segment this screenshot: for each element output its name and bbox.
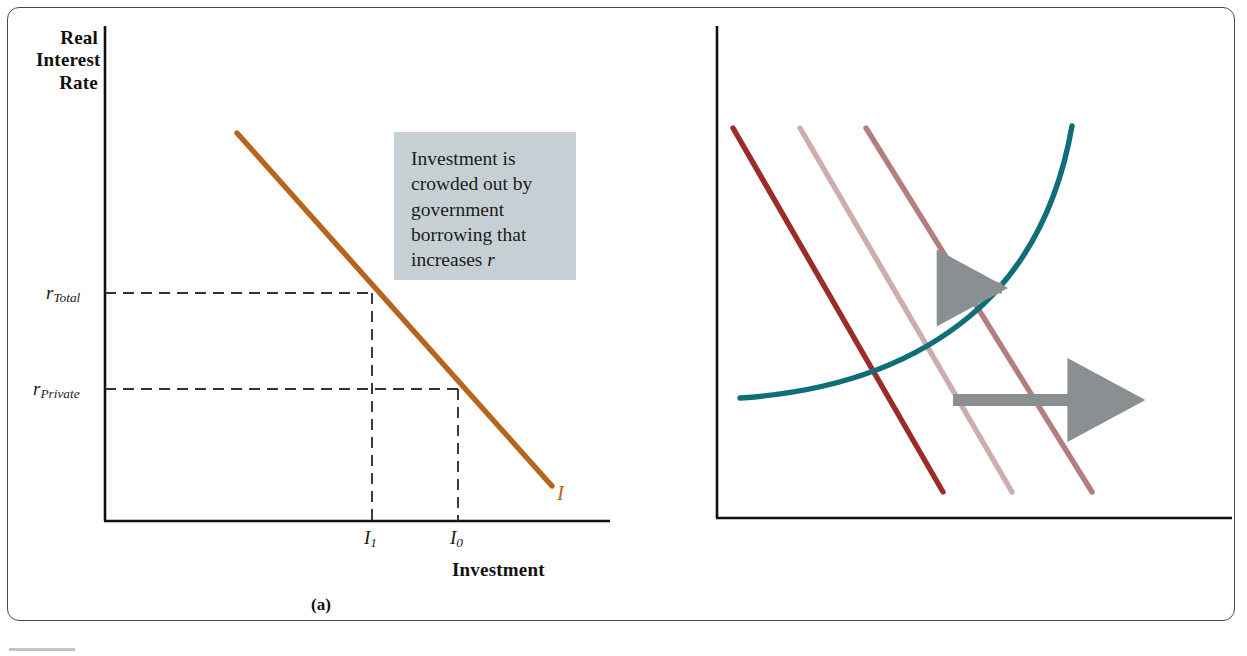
- panel-a-y-axis-title: Real Interest Rate: [36, 27, 98, 94]
- y-tick-label-r-total-sub: Total: [53, 290, 80, 305]
- y-tick-label-r-private: rPrivate: [33, 378, 80, 402]
- x-tick-label-i0-sub: 0: [456, 535, 463, 550]
- panel-b-plot: [640, 0, 1247, 656]
- callout-crowding-out: Investment is crowded out by government …: [394, 132, 576, 280]
- callout-crowding-out-text: Investment is crowded out by government …: [411, 148, 532, 270]
- curve-label-investment: I: [557, 481, 564, 506]
- panel-a-plot: [0, 0, 640, 656]
- y-tick-label-r-private-sub: Private: [40, 386, 79, 401]
- ad0-curve: [733, 128, 943, 492]
- figure-caption-rule: [9, 648, 75, 651]
- panel-a-caption: (a): [311, 595, 331, 615]
- x-tick-label-i1: I1: [364, 527, 377, 551]
- panel-a: Real Interest Rate Investment Investment…: [0, 0, 640, 656]
- y-tick-label-r-total: rTotal: [46, 282, 80, 306]
- x-tick-label-i1-sub: 1: [370, 535, 377, 550]
- x-tick-label-i0: I0: [450, 527, 463, 551]
- panel-a-x-axis-title: Investment: [452, 559, 545, 581]
- figure-root: Real Interest Rate Investment Investment…: [0, 0, 1247, 656]
- sras-curve: [740, 126, 1072, 398]
- panel-b: Price Index RGNP Lower investment reduce…: [640, 0, 1247, 656]
- callout-crowding-out-italic-r: r: [487, 249, 495, 270]
